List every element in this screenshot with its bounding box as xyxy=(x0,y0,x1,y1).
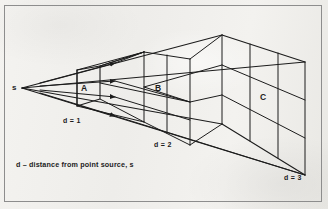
distance-label-1: d = 1 xyxy=(63,117,81,124)
plane-d2 xyxy=(144,52,190,145)
ray-1-continued xyxy=(115,52,144,63)
ray-3-continued xyxy=(115,97,190,120)
connector-top-d2-d3 xyxy=(190,35,222,59)
d3-top-edge xyxy=(222,35,305,62)
region-label-b: B xyxy=(155,83,161,93)
connector-bottom-d2-d3 xyxy=(190,124,222,145)
cone-edges xyxy=(22,35,305,175)
region-label-a: A xyxy=(81,83,87,93)
source-label: s xyxy=(12,83,17,92)
distance-label-2: d = 2 xyxy=(154,141,172,148)
figure-panel: s A B C d = 1 d = 2 d = 3 d – distance f… xyxy=(0,0,328,209)
inverse-square-law-diagram xyxy=(0,0,328,209)
figure-caption: d – distance from point source, s xyxy=(16,160,134,169)
ray-4-continued xyxy=(115,116,305,175)
region-label-c: C xyxy=(260,92,266,102)
distance-label-3: d = 3 xyxy=(284,174,302,181)
plane-d3 xyxy=(222,35,305,175)
